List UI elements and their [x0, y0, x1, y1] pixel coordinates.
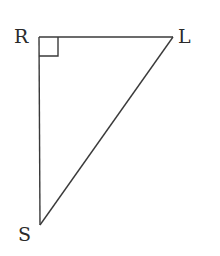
right-angle-marker-icon — [39, 37, 58, 56]
vertex-label-r: R — [14, 25, 29, 47]
edge-ls — [40, 37, 173, 225]
vertex-label-s: S — [18, 223, 31, 245]
edge-rs — [39, 37, 40, 225]
triangle — [39, 37, 173, 225]
triangle-diagram: R L S — [0, 0, 220, 256]
vertex-label-l: L — [178, 25, 191, 47]
